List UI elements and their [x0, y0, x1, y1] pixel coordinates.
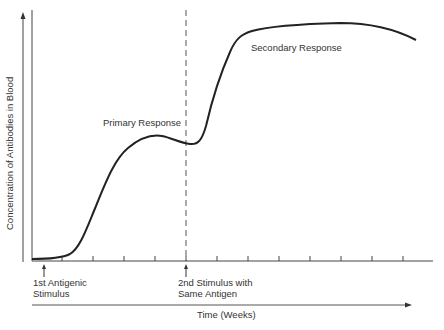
secondary-response-label: Secondary Response — [251, 42, 342, 54]
y-axis-label: Concentration of Antibodies in Blood — [4, 77, 15, 230]
x-axis-label: Time (Weeks) — [197, 309, 256, 321]
x-axis-ticks — [62, 256, 403, 261]
antibody-curve — [32, 23, 416, 259]
second-stimulus-label-line2: Same Antigen — [178, 288, 237, 300]
y-axis-arrow — [21, 12, 26, 262]
first-stimulus-arrow — [42, 264, 46, 277]
second-stimulus-arrow — [184, 264, 188, 277]
primary-response-label: Primary Response — [103, 117, 181, 129]
time-axis-arrow — [32, 303, 412, 308]
first-stimulus-label-line2: Stimulus — [33, 288, 69, 300]
